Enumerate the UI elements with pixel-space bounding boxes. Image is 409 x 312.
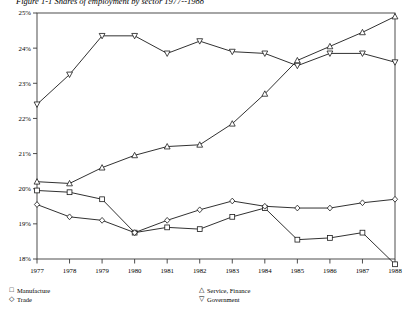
legend-item-service-finance: △ Service, Finance: [196, 286, 250, 295]
data-point-marker: [35, 188, 40, 193]
data-point-marker: [164, 51, 170, 56]
y-axis-tick-label: 19%: [19, 220, 32, 227]
data-point-marker: [392, 14, 398, 19]
data-point-marker: [197, 207, 202, 213]
y-axis-tick-label: 22%: [19, 115, 32, 122]
legend-label-government: Government: [207, 295, 240, 304]
x-axis-tick-label: 1978: [63, 267, 77, 274]
data-point-marker: [165, 225, 170, 230]
data-point-marker: [230, 198, 235, 204]
x-axis-tick-label: 1980: [128, 267, 142, 274]
triangle-down-marker-icon: ▽: [196, 295, 207, 304]
data-point-marker: [295, 205, 300, 211]
legend-label-trade: Trade: [17, 295, 32, 304]
legend-label-manufacture: Manufacture: [17, 286, 50, 295]
data-point-marker: [392, 60, 398, 65]
data-point-marker: [197, 227, 202, 232]
series-manufacture: [35, 188, 398, 267]
data-point-marker: [360, 230, 365, 235]
data-point-marker: [295, 237, 300, 242]
series-line: [37, 17, 395, 184]
y-axis-tick-label: 18%: [19, 255, 32, 262]
x-axis-tick-label: 1977: [30, 267, 44, 274]
series-line: [37, 36, 395, 105]
figure-container: Figure 1-1 Shares of employment by secto…: [0, 0, 409, 312]
series-trade: [34, 196, 397, 235]
triangle-up-marker-icon: △: [196, 286, 207, 295]
data-point-marker: [294, 57, 300, 62]
x-axis-tick-label: 1979: [95, 267, 109, 274]
data-point-marker: [165, 217, 170, 223]
y-axis-tick-label: 23%: [19, 80, 32, 87]
square-marker-icon: □: [6, 286, 17, 295]
data-point-marker: [360, 29, 366, 34]
y-axis-tick-label: 24%: [19, 45, 32, 52]
legend-right: △ Service, Finance ▽ Government: [196, 286, 250, 304]
x-axis-tick-label: 1983: [225, 267, 239, 274]
legend-item-government: ▽ Government: [196, 295, 250, 304]
x-axis-tick-label: 1981: [160, 267, 174, 274]
series-government: [34, 33, 398, 107]
line-chart-plot: 18%19%20%21%22%23%24%25%1977197819791980…: [0, 0, 409, 312]
diamond-marker-icon: ◇: [6, 295, 17, 304]
legend-item-trade: ◇ Trade: [6, 295, 50, 304]
x-axis-tick-label: 1984: [258, 267, 272, 274]
x-axis-tick-label: 1986: [323, 267, 337, 274]
data-point-marker: [328, 236, 333, 241]
data-point-marker: [34, 102, 40, 107]
legend-item-manufacture: □ Manufacture: [6, 286, 50, 295]
legend-label-service-finance: Service, Finance: [207, 286, 250, 295]
data-point-marker: [327, 205, 332, 211]
data-point-marker: [393, 262, 398, 267]
data-point-marker: [67, 190, 72, 195]
data-point-marker: [360, 200, 365, 206]
x-axis-tick-label: 1982: [193, 267, 207, 274]
data-point-marker: [34, 202, 39, 208]
data-point-marker: [100, 197, 105, 202]
data-point-marker: [294, 63, 300, 68]
x-axis-tick-label: 1987: [356, 267, 370, 274]
data-point-marker: [392, 196, 397, 202]
data-point-marker: [67, 214, 72, 220]
legend-left: □ Manufacture ◇ Trade: [6, 286, 50, 304]
x-axis-tick-label: 1985: [291, 267, 305, 274]
y-axis-tick-label: 21%: [19, 150, 32, 157]
series-line: [37, 190, 395, 264]
y-axis-tick-label: 20%: [19, 185, 32, 192]
x-axis-tick-label: 1988: [388, 267, 402, 274]
series-service-finance: [34, 14, 398, 186]
data-point-marker: [327, 43, 333, 48]
data-point-marker: [230, 214, 235, 219]
series-line: [37, 199, 395, 232]
y-axis-tick-label: 25%: [19, 9, 32, 16]
data-point-marker: [99, 217, 104, 223]
